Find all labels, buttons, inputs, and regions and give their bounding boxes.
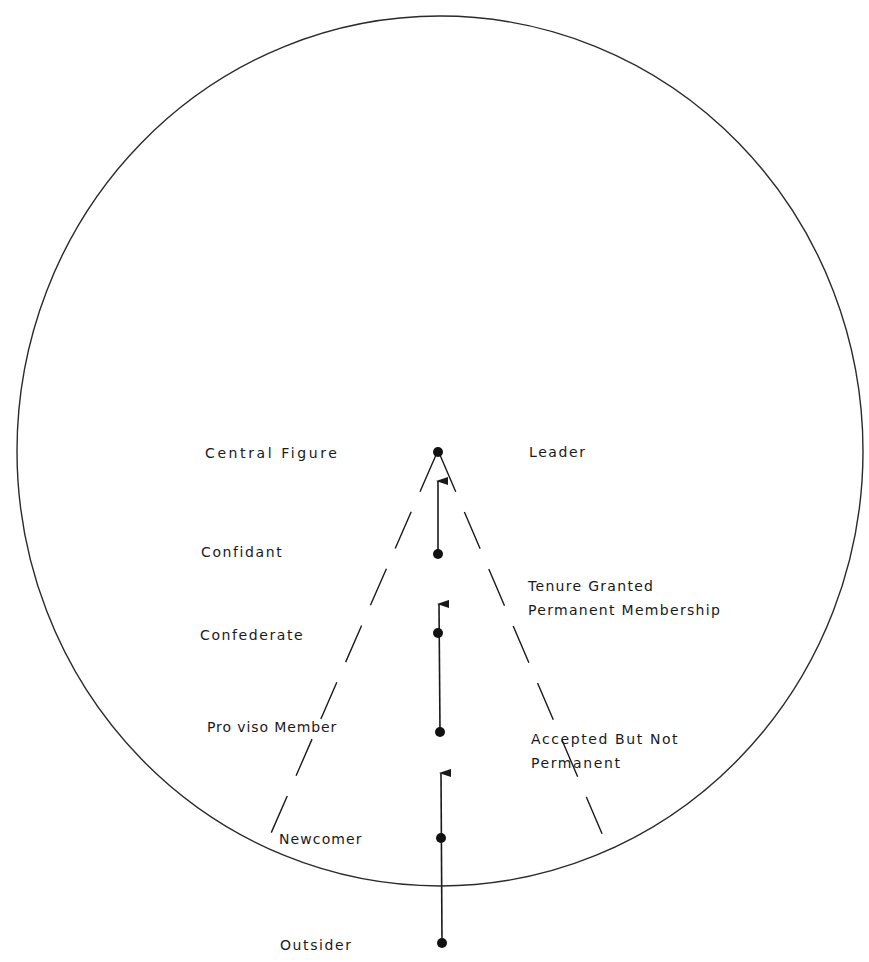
- confidant-dot: [433, 549, 443, 559]
- label-tenure-granted: Tenure Granted Permanent Membership: [528, 574, 721, 622]
- right-dashed-boundary-line: [440, 455, 609, 850]
- label-leader: Leader: [529, 443, 587, 461]
- label-confidant: Confidant: [201, 543, 283, 561]
- label-confederate: Confederate: [200, 626, 304, 644]
- diagram-canvas: [0, 0, 869, 962]
- arrow-outsider-to-proviso: [441, 773, 442, 943]
- label-newcomer: Newcomer: [279, 830, 363, 848]
- label-proviso-member: Pro viso Member: [207, 718, 337, 736]
- left-dashed-boundary-line: [265, 455, 436, 847]
- arrow-proviso-to-confederate: [439, 604, 440, 732]
- newcomer-dot: [436, 833, 446, 843]
- outsider-dot: [437, 938, 447, 948]
- label-accepted-not-permanent: Accepted But Not Permanent: [531, 727, 679, 775]
- proviso-member-dot: [435, 727, 445, 737]
- leader-dot: [433, 447, 443, 457]
- label-central-figure: Central Figure: [205, 444, 340, 462]
- confederate-dot: [433, 628, 443, 638]
- label-outsider: Outsider: [280, 936, 353, 954]
